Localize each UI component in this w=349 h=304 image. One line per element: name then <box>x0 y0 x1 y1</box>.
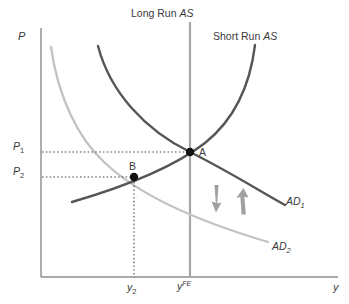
p1-tick-sub: 1 <box>20 146 24 155</box>
ad2-label: AD2 <box>272 241 291 252</box>
long-run-as-label: Long Run AS <box>131 8 193 19</box>
equilibrium-point-b <box>130 173 138 181</box>
p1-tick-base: P <box>13 140 20 152</box>
down-arrow-icon <box>212 185 222 213</box>
yfe-tick-label: yFE <box>177 281 191 292</box>
p2-tick-label: P2 <box>13 166 24 177</box>
long-run-as-label-italic: AS <box>179 7 193 19</box>
ad1-label-base: AD <box>286 195 301 207</box>
y-axis-label: P <box>18 31 25 42</box>
ad1-label-sub: 1 <box>301 201 305 210</box>
y2-tick-sub: 2 <box>132 287 136 296</box>
p2-tick-sub: 2 <box>20 171 24 180</box>
short-run-as-label-text: Short Run <box>213 30 263 42</box>
ad2-label-base: AD <box>272 240 287 252</box>
p2-tick-base: P <box>13 165 20 177</box>
x-axis-label: y <box>333 282 339 293</box>
diagram-canvas: Long Run AS Short Run AS AD1 AD2 P y P1 … <box>0 0 349 304</box>
as-ad-diagram <box>0 0 349 304</box>
point-a-label: A <box>199 147 206 158</box>
long-run-as-label-text: Long Run <box>131 7 179 19</box>
ad2-label-sub: 2 <box>287 246 291 255</box>
yfe-tick-sup: FE <box>182 280 191 287</box>
short-run-as-label-italic: AS <box>263 30 277 42</box>
up-arrow-icon <box>236 188 248 215</box>
point-b-label: B <box>129 161 136 172</box>
y2-tick-label: y2 <box>127 282 136 293</box>
ad2-curve <box>51 47 268 242</box>
short-run-as-curve <box>72 45 255 202</box>
equilibrium-point-a <box>186 148 194 156</box>
ad1-label: AD1 <box>286 196 305 207</box>
p1-tick-label: P1 <box>13 141 24 152</box>
short-run-as-label: Short Run AS <box>213 31 277 42</box>
